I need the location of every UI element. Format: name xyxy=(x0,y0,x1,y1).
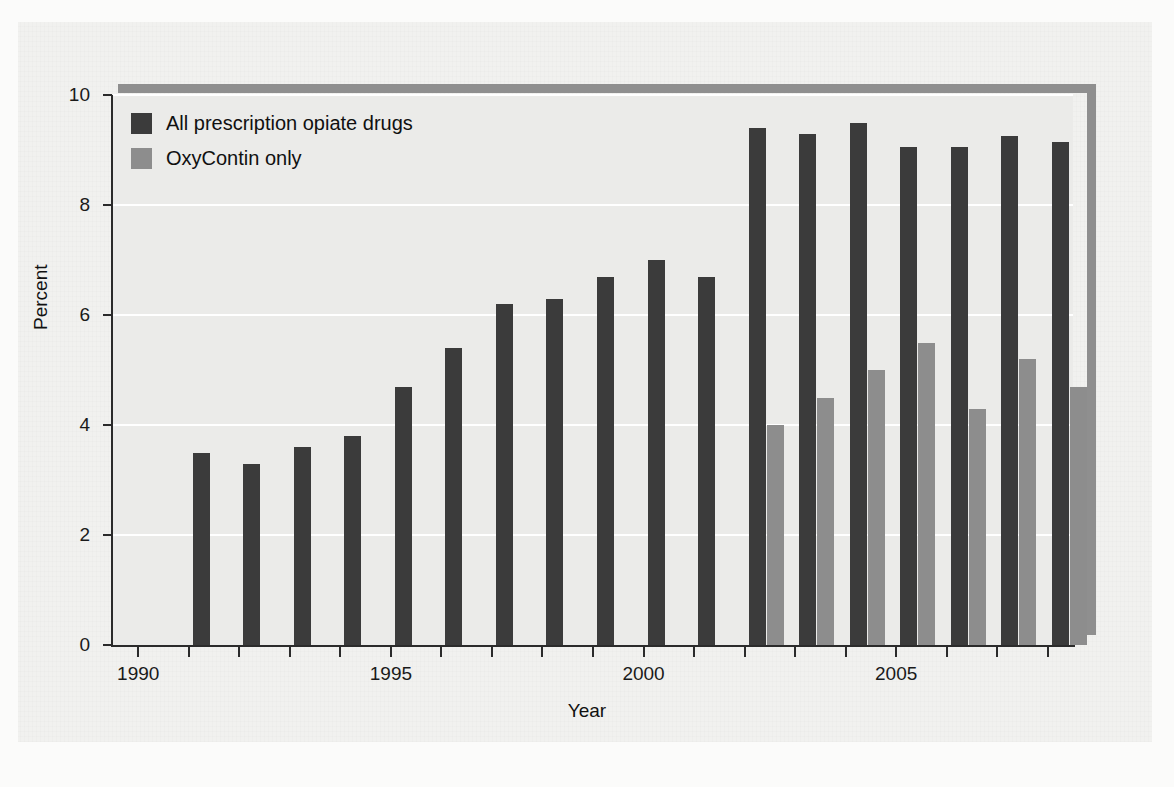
x-axis-title: Year xyxy=(0,700,1174,722)
y-axis-tick-label: 8 xyxy=(79,195,90,214)
x-axis-tick xyxy=(592,647,594,657)
bar xyxy=(817,398,834,646)
y-axis-tick xyxy=(103,94,112,96)
x-axis-tick-label: 1990 xyxy=(117,663,159,685)
bar xyxy=(799,134,816,646)
bar xyxy=(496,304,513,645)
plot-shadow-right xyxy=(1087,84,1096,635)
x-axis-tick xyxy=(137,647,139,657)
gridline xyxy=(113,94,1073,96)
bar xyxy=(969,409,986,646)
legend-item-label: OxyContin only xyxy=(166,147,302,170)
gridline xyxy=(113,204,1073,206)
bar xyxy=(597,277,614,646)
figure-margin-left xyxy=(0,0,18,787)
x-axis-tick xyxy=(744,647,746,657)
bar xyxy=(193,453,210,646)
legend-item: OxyContin only xyxy=(131,147,413,170)
legend-swatch-light xyxy=(131,148,152,169)
bar xyxy=(395,387,412,646)
bar xyxy=(868,370,885,645)
x-axis-tick xyxy=(339,647,341,657)
gridline xyxy=(113,314,1073,316)
y-axis-tick xyxy=(103,204,112,206)
y-axis-tick xyxy=(103,424,112,426)
y-axis-tick xyxy=(103,644,112,646)
bar xyxy=(648,260,665,645)
bar xyxy=(1019,359,1036,645)
y-axis-tick-label: 0 xyxy=(79,635,90,654)
figure-margin-bottom xyxy=(0,742,1174,787)
legend: All prescription opiate drugsOxyContin o… xyxy=(131,112,413,182)
bar xyxy=(1070,387,1087,646)
x-axis-tick xyxy=(693,647,695,657)
bar xyxy=(918,343,935,646)
legend-swatch-dark xyxy=(131,113,152,134)
y-axis-tick-label: 6 xyxy=(79,305,90,324)
x-axis-tick xyxy=(390,647,392,657)
y-axis-tick xyxy=(103,534,112,536)
bar xyxy=(243,464,260,646)
x-axis-tick xyxy=(845,647,847,657)
bar xyxy=(900,147,917,645)
figure-margin-right xyxy=(1152,0,1174,787)
y-axis-title: Percent xyxy=(30,265,52,330)
bar xyxy=(951,147,968,645)
legend-item: All prescription opiate drugs xyxy=(131,112,413,135)
y-axis-line xyxy=(111,95,113,646)
x-axis-tick xyxy=(895,647,897,657)
x-axis-tick xyxy=(1047,647,1049,657)
x-axis-tick xyxy=(996,647,998,657)
x-axis-tick xyxy=(946,647,948,657)
bar xyxy=(294,447,311,645)
x-axis-tick xyxy=(491,647,493,657)
bar xyxy=(749,128,766,645)
bar xyxy=(698,277,715,646)
y-axis-tick-label: 10 xyxy=(69,85,90,104)
x-axis-tick xyxy=(238,647,240,657)
bar xyxy=(1052,142,1069,645)
x-axis-tick xyxy=(188,647,190,657)
y-axis-tick-label: 4 xyxy=(79,415,90,434)
x-axis-tick xyxy=(440,647,442,657)
y-axis-tick-label: 2 xyxy=(79,525,90,544)
chart-figure: 0246810 1990199520002005 Percent Year Al… xyxy=(0,0,1174,787)
legend-item-label: All prescription opiate drugs xyxy=(166,112,413,135)
plot-shadow-top xyxy=(118,84,1096,93)
x-axis-tick xyxy=(643,647,645,657)
x-axis-tick-label: 1995 xyxy=(370,663,412,685)
figure-margin-top xyxy=(0,0,1174,22)
bar xyxy=(546,299,563,646)
x-axis-tick xyxy=(541,647,543,657)
y-axis-tick xyxy=(103,314,112,316)
bar xyxy=(850,123,867,646)
bar xyxy=(767,425,784,645)
bar xyxy=(445,348,462,645)
x-axis-tick xyxy=(794,647,796,657)
bar xyxy=(1001,136,1018,645)
x-axis-tick-label: 2005 xyxy=(875,663,917,685)
x-axis-tick xyxy=(289,647,291,657)
x-axis-tick-label: 2000 xyxy=(622,663,664,685)
bar xyxy=(344,436,361,645)
